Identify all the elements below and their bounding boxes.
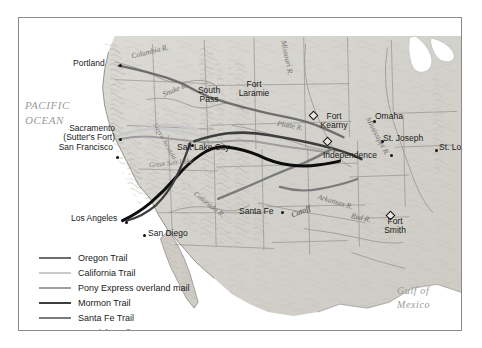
- fort-laramie-line2: Laramie: [229, 89, 279, 98]
- oregon-trail-swatch: [39, 257, 71, 259]
- fort-smith-label: Fort Smith: [379, 217, 411, 235]
- california-trail-label: California Trail: [78, 268, 136, 278]
- oregon-trail-label: Oregon Trail: [78, 253, 128, 263]
- legend-item-california-trail[interactable]: California Trail: [39, 265, 209, 280]
- st-louis-label: St. Louis: [439, 143, 462, 152]
- gulf-of-mexico-label: Gulf of Mexico: [397, 284, 430, 311]
- south-pass-line2: Pass: [191, 95, 227, 104]
- pacific-line1: PACIFIC: [25, 98, 70, 113]
- st-joseph-label: St. Joseph: [383, 134, 423, 143]
- independence-label: Independence: [323, 151, 377, 160]
- salt-lake-city-label: Salt Lake City: [177, 143, 229, 152]
- legend-item-pony-express[interactable]: Pony Express overland mail: [39, 280, 209, 295]
- fort-smith-line2: Smith: [379, 226, 411, 235]
- spanish-trail-label: Spanish Trail: [78, 328, 130, 332]
- gulf-line2: Mexico: [397, 298, 430, 312]
- legend-item-oregon-trail[interactable]: Oregon Trail: [39, 250, 209, 265]
- san-diego-label: San Diego: [148, 229, 188, 238]
- pony-express-swatch: [39, 287, 71, 289]
- california-trail-swatch: [39, 272, 71, 274]
- legend-item-mormon-trail[interactable]: Mormon Trail: [39, 295, 209, 310]
- mormon-trail-swatch: [39, 302, 71, 304]
- omaha-label: Omaha: [375, 112, 403, 121]
- pony-express-label: Pony Express overland mail: [78, 283, 190, 293]
- fort-laramie-label: Fort Laramie: [229, 80, 279, 98]
- trails-map: PACIFIC OCEAN Gulf of Mexico Columbia R.…: [0, 0, 482, 348]
- fort-kearny-label: Fort Kearny: [313, 112, 355, 130]
- map-frame: PACIFIC OCEAN Gulf of Mexico Columbia R.…: [18, 17, 462, 331]
- santa-fe-label: Santa Fe: [239, 207, 274, 216]
- mormon-trail-label: Mormon Trail: [78, 298, 131, 308]
- santa-fe-trail-swatch: [39, 317, 71, 319]
- sutters-fort-label: (Sutter's Fort): [35, 133, 115, 142]
- south-pass-label: South Pass: [191, 86, 227, 104]
- san-francisco-label: San Francisco: [39, 143, 113, 152]
- santa-fe-trail-label: Santa Fe Trail: [78, 313, 134, 323]
- legend: Oregon Trail California Trail Pony Expre…: [39, 250, 209, 331]
- portland-label: Portland: [73, 59, 105, 68]
- fort-kearny-line2: Kearny: [313, 121, 355, 130]
- legend-item-santa-fe-trail[interactable]: Santa Fe Trail: [39, 310, 209, 325]
- gulf-line1: Gulf of: [397, 284, 430, 298]
- los-angeles-label: Los Angeles: [71, 214, 117, 223]
- legend-item-spanish-trail[interactable]: Spanish Trail: [39, 325, 209, 331]
